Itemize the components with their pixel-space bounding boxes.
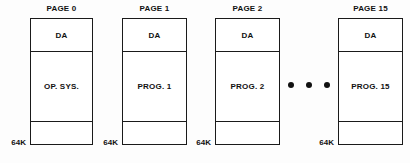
segment-main-2: PROG. 2 — [216, 52, 279, 122]
ellipsis-icon — [288, 78, 330, 92]
page-title-15: PAGE 15 — [338, 4, 403, 13]
page-box-1: DA PROG. 1 — [122, 18, 187, 145]
ellipsis-dot — [324, 82, 330, 88]
capacity-label-0: 64K — [4, 138, 26, 147]
segment-free-1 — [123, 122, 186, 146]
segment-da-15: DA — [339, 19, 402, 52]
page-box-0: DA OP. SYS. — [30, 18, 93, 145]
segment-main-15: PROG. 15 — [339, 52, 402, 122]
capacity-label-15: 64K — [312, 138, 334, 147]
segment-da-1: DA — [123, 19, 186, 52]
page-title-2: PAGE 2 — [215, 4, 280, 13]
capacity-label-1: 64K — [96, 138, 118, 147]
page-title-1: PAGE 1 — [122, 4, 187, 13]
segment-free-15 — [339, 122, 402, 146]
segment-free-2 — [216, 122, 279, 146]
segment-da-0: DA — [31, 19, 92, 52]
page-title-0: PAGE 0 — [30, 4, 93, 13]
segment-main-0: OP. SYS. — [31, 52, 92, 122]
page-box-2: DA PROG. 2 — [215, 18, 280, 145]
segment-main-1: PROG. 1 — [123, 52, 186, 122]
capacity-label-2: 64K — [189, 138, 211, 147]
ellipsis-dot — [306, 82, 312, 88]
ellipsis-dot — [288, 82, 294, 88]
segment-da-2: DA — [216, 19, 279, 52]
memory-page-diagram: PAGE 0 DA OP. SYS. 64K PAGE 1 DA PROG. 1… — [0, 0, 410, 163]
page-box-15: DA PROG. 15 — [338, 18, 403, 145]
segment-free-0 — [31, 122, 92, 146]
